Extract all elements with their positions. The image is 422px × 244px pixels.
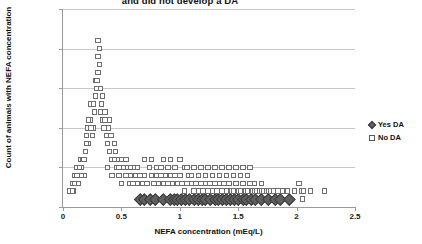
data-point-no-da: [135, 165, 140, 170]
data-point-no-da: [108, 133, 113, 138]
data-point-no-da: [105, 141, 110, 146]
data-point-no-da: [245, 173, 250, 178]
data-point-no-da: [88, 125, 93, 130]
data-point-no-da: [203, 173, 208, 178]
data-point-no-da: [94, 78, 99, 83]
data-point-no-da: [198, 165, 203, 170]
data-point-no-da: [165, 181, 170, 186]
data-point-no-da: [107, 149, 112, 154]
data-point-no-da: [226, 165, 231, 170]
data-point-yes-da: [284, 193, 296, 205]
y-axis-tick-mark: [59, 9, 63, 10]
data-point-no-da: [217, 173, 222, 178]
data-point-no-da: [130, 181, 135, 186]
data-point-no-da: [149, 157, 154, 162]
gridline: [63, 9, 355, 10]
data-point-no-da: [97, 46, 102, 51]
data-point-no-da: [161, 157, 166, 162]
data-point-no-da: [147, 165, 152, 170]
data-point-no-da: [182, 188, 187, 193]
data-point-no-da: [90, 133, 95, 138]
x-axis-tick-mark: [297, 207, 298, 211]
x-axis-tick-mark: [121, 207, 122, 211]
data-point-no-da: [99, 101, 104, 106]
data-point-no-da: [285, 188, 290, 193]
data-point-no-da: [224, 173, 229, 178]
data-point-no-da: [119, 181, 124, 186]
data-point-no-da: [98, 109, 103, 114]
chart-title: and did not develop a DA: [0, 0, 360, 6]
data-point-no-da: [106, 125, 111, 130]
filled-diamond-icon: [366, 122, 377, 128]
data-point-no-da: [92, 109, 97, 114]
data-point-no-da: [233, 181, 238, 186]
data-point-no-da: [210, 173, 215, 178]
data-point-no-da: [70, 188, 75, 193]
data-point-no-da: [72, 181, 77, 186]
legend-item-yes-da[interactable]: Yes DA: [366, 118, 422, 131]
legend-label: No DA: [377, 133, 401, 142]
data-point-no-da: [240, 165, 245, 170]
data-point-no-da: [177, 157, 182, 162]
y-axis-tick-mark: [59, 49, 63, 50]
y-axis-tick-mark: [59, 88, 63, 89]
data-point-no-da: [113, 149, 118, 154]
y-axis-tick-mark: [59, 167, 63, 168]
x-axis-tick-label: 1.5: [218, 212, 258, 221]
data-point-no-da: [231, 173, 236, 178]
data-point-no-da: [123, 157, 128, 162]
x-axis-tick-label: 1: [160, 212, 200, 221]
data-point-no-da: [308, 188, 313, 193]
data-point-no-da: [84, 141, 89, 146]
data-point-no-da: [212, 165, 217, 170]
data-point-no-da: [107, 117, 112, 122]
data-point-no-da: [112, 141, 117, 146]
data-point-no-da: [95, 70, 100, 75]
data-point-no-da: [184, 165, 189, 170]
data-point-no-da: [238, 173, 243, 178]
data-point-no-da: [300, 196, 305, 201]
data-point-no-da: [301, 188, 306, 193]
data-point-no-da: [74, 173, 79, 178]
data-point-no-da: [144, 181, 149, 186]
scatter-chart: and did not develop a DA Count of animal…: [0, 0, 422, 244]
data-point-no-da: [196, 173, 201, 178]
data-point-no-da: [98, 86, 103, 91]
data-point-no-da: [81, 157, 86, 162]
data-point-no-da: [109, 173, 114, 178]
data-point-no-da: [116, 165, 121, 170]
gridline: [63, 88, 355, 89]
data-point-no-da: [292, 188, 297, 193]
data-point-no-da: [84, 133, 89, 138]
y-axis-label: Count of animals with NEFA concentration: [4, 0, 13, 188]
data-point-no-da: [247, 165, 252, 170]
x-axis-tick-mark: [238, 207, 239, 211]
plot-area: 051015202500.511.522.5: [62, 9, 355, 208]
data-point-no-da: [233, 165, 238, 170]
data-point-no-da: [226, 181, 231, 186]
data-point-no-da: [322, 188, 327, 193]
data-point-no-da: [97, 62, 102, 67]
x-axis-tick-label: 0.5: [101, 212, 141, 221]
data-point-no-da: [168, 157, 173, 162]
x-axis-tick-mark: [355, 207, 356, 211]
legend-item-no-da[interactable]: No DA: [366, 131, 422, 144]
data-point-no-da: [79, 173, 84, 178]
data-point-no-da: [83, 149, 88, 154]
data-point-no-da: [100, 93, 105, 98]
gridline: [63, 49, 355, 50]
data-point-no-da: [95, 54, 100, 59]
data-point-no-da: [296, 181, 301, 186]
data-point-no-da: [177, 173, 182, 178]
data-point-no-da: [154, 165, 159, 170]
x-axis-tick-label: 0: [43, 212, 83, 221]
data-point-no-da: [77, 165, 82, 170]
data-point-no-da: [91, 101, 96, 106]
data-point-no-da: [142, 157, 147, 162]
data-point-no-da: [165, 165, 170, 170]
x-axis-label: NEFA concentration (mEq/L): [62, 227, 355, 236]
data-point-no-da: [259, 181, 264, 186]
data-point-no-da: [142, 173, 147, 178]
data-point-no-da: [205, 165, 210, 170]
legend-label: Yes DA: [377, 120, 404, 129]
